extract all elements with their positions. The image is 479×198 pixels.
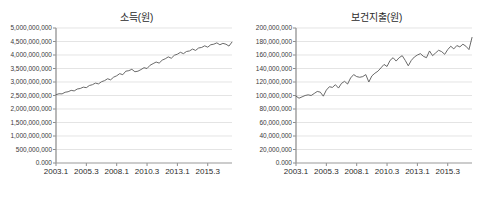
y-tick-label: 500,000,000 <box>16 146 52 153</box>
y-tick-label: 4,500,000,000 <box>10 38 52 45</box>
y-tick-label: 20,000,000 <box>259 146 292 153</box>
y-tick-label: 3,500,000,000 <box>10 65 52 72</box>
figure-root: 소득(원) 5,000,000,0004,500,000,0004,000,00… <box>0 0 479 198</box>
chart-panel-income: 소득(원) 5,000,000,0004,500,000,0004,000,00… <box>0 0 239 198</box>
x-tick-label: 2008.1 <box>344 168 368 176</box>
y-tick-label: 200,000,000 <box>256 25 292 32</box>
y-tick-label: 0.000 <box>36 160 52 167</box>
x-tick-label: 2005.3 <box>314 168 338 176</box>
x-axis-ticks-income: 2003.12005.32008.12010.32013.12015.3 <box>0 168 239 182</box>
y-tick-label: 3,000,000,000 <box>10 79 52 86</box>
y-tick-label: 1,500,000,000 <box>10 119 52 126</box>
x-tick-label: 2008.1 <box>104 168 128 176</box>
y-tick-label: 100,000,000 <box>256 92 292 99</box>
x-tick-label: 2013.1 <box>405 168 429 176</box>
y-tick-label: 2,500,000,000 <box>10 92 52 99</box>
y-tick-label: 2,000,000,000 <box>10 106 52 113</box>
y-tick-label: 80,000,000 <box>259 106 292 113</box>
x-tick-label: 2005.3 <box>74 168 98 176</box>
y-tick-label: 5,000,000,000 <box>10 25 52 32</box>
y-tick-label: 180,000,000 <box>256 38 292 45</box>
y-tick-label: 160,000,000 <box>256 52 292 59</box>
x-tick-label: 2003.1 <box>44 168 68 176</box>
x-tick-label: 2015.3 <box>195 168 219 176</box>
y-tick-label: 40,000,000 <box>259 133 292 140</box>
y-tick-label: 0.000 <box>276 160 292 167</box>
x-tick-label: 2003.1 <box>284 168 308 176</box>
x-tick-label: 2015.3 <box>435 168 459 176</box>
y-tick-label: 4,000,000,000 <box>10 52 52 59</box>
y-tick-label: 140,000,000 <box>256 65 292 72</box>
x-tick-label: 2010.3 <box>135 168 159 176</box>
y-tick-label: 1,000,000,000 <box>10 133 52 140</box>
data-series-line <box>296 37 472 98</box>
x-tick-label: 2013.1 <box>165 168 189 176</box>
plot-area-health-expenditure: 200,000,000180,000,000160,000,000140,000… <box>240 0 479 198</box>
y-tick-label: 120,000,000 <box>256 79 292 86</box>
plot-area-income: 5,000,000,0004,500,000,0004,000,000,0003… <box>0 0 239 198</box>
y-tick-label: 60,000,000 <box>259 119 292 126</box>
chart-panel-health-expenditure: 보건지출(원) 200,000,000180,000,000160,000,00… <box>240 0 479 198</box>
x-axis-ticks-health-expenditure: 2003.12005.32008.12010.32013.12015.3 <box>240 168 479 182</box>
x-tick-label: 2010.3 <box>375 168 399 176</box>
